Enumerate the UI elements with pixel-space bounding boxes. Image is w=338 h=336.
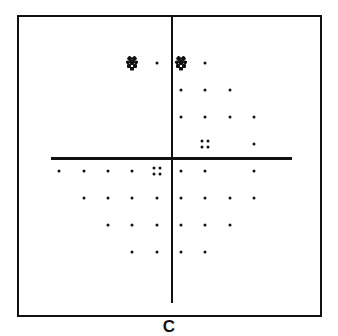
normal-dot-icon xyxy=(156,197,159,200)
normal-dot-icon xyxy=(131,251,134,254)
normal-dot-icon xyxy=(180,197,183,200)
stipple-defect-icon xyxy=(126,56,138,71)
normal-dot-icon xyxy=(229,197,232,200)
stipple-defect-icon xyxy=(175,56,187,71)
normal-dot-icon xyxy=(204,251,207,254)
normal-dot-icon xyxy=(58,170,61,173)
normal-dot-icon xyxy=(204,224,207,227)
normal-dot-icon xyxy=(131,197,134,200)
normal-dot-icon xyxy=(204,197,207,200)
normal-dot-icon xyxy=(229,224,232,227)
normal-dot-icon xyxy=(229,89,232,92)
normal-dot-icon xyxy=(107,224,110,227)
normal-dot-icon xyxy=(180,89,183,92)
normal-dot-icon xyxy=(180,116,183,119)
normal-dot-icon xyxy=(253,116,256,119)
figure-caption: C xyxy=(0,318,338,336)
normal-dot-icon xyxy=(131,170,134,173)
normal-dot-icon xyxy=(180,224,183,227)
normal-dot-icon xyxy=(180,251,183,254)
normal-dot-icon xyxy=(156,251,159,254)
four-dot-icon xyxy=(153,167,162,176)
normal-dot-icon xyxy=(107,197,110,200)
normal-dot-icon xyxy=(229,116,232,119)
normal-dot-icon xyxy=(204,89,207,92)
normal-dot-icon xyxy=(83,197,86,200)
normal-dot-icon xyxy=(83,170,86,173)
normal-dot-icon xyxy=(156,224,159,227)
four-dot-icon xyxy=(201,140,210,149)
normal-dot-icon xyxy=(253,170,256,173)
normal-dot-icon xyxy=(204,116,207,119)
visual-field-frame xyxy=(17,15,322,317)
normal-dot-icon xyxy=(156,62,159,65)
normal-dot-icon xyxy=(204,170,207,173)
normal-dot-icon xyxy=(107,170,110,173)
normal-dot-icon xyxy=(253,143,256,146)
horizontal-meridian-axis xyxy=(51,157,292,160)
normal-dot-icon xyxy=(131,224,134,227)
normal-dot-icon xyxy=(204,62,207,65)
normal-dot-icon xyxy=(253,197,256,200)
normal-dot-icon xyxy=(180,170,183,173)
